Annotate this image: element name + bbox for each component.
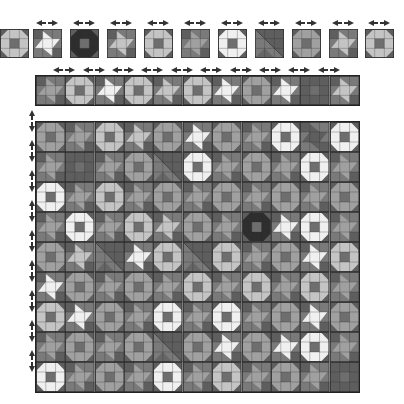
board-tile-octagon[interactable] [242,332,271,362]
board-tile-octagon[interactable] [330,242,359,272]
board-tile-octagon[interactable] [271,362,300,392]
board-tile-star[interactable] [153,272,182,302]
board-tile-octagon[interactable] [212,122,241,152]
board-tile-star[interactable] [300,362,329,392]
board-tile-octagon[interactable] [124,332,153,362]
palette-tile-octagon[interactable] [0,29,29,58]
board-tile-octagon[interactable] [300,332,329,362]
board-tile-star[interactable] [124,362,153,392]
strip-swap-handle[interactable] [83,67,105,73]
strip-tile-star[interactable] [95,76,124,105]
board-tile-octagon[interactable] [153,302,182,332]
board-tile-octagon[interactable] [212,182,241,212]
palette-swap-handle[interactable] [332,20,354,26]
board-tile-star[interactable] [65,182,94,212]
board-tile-star[interactable] [95,152,124,182]
board-tile-octagon[interactable] [65,272,94,302]
palette-swap-handle[interactable] [73,20,95,26]
strip-swap-handle[interactable] [259,67,281,73]
board-tile-star[interactable] [36,212,65,242]
palette-tile-star[interactable] [33,29,62,58]
board-tile-star[interactable] [36,272,65,302]
board-tile-octagon[interactable] [271,302,300,332]
board-tile-star[interactable] [65,302,94,332]
board-tile-octagon[interactable] [65,152,94,182]
board-tile-octagon[interactable] [271,122,300,152]
board-tile-star[interactable] [36,332,65,362]
palette-tile-star[interactable] [181,29,210,58]
board-tile-star[interactable] [65,242,94,272]
board-tile-octagon[interactable] [153,362,182,392]
palette-swap-handle[interactable] [36,20,58,26]
board-tile-star[interactable] [124,242,153,272]
board-tile-star[interactable] [124,302,153,332]
board-tile-star[interactable] [330,272,359,302]
board-tile-star[interactable] [300,242,329,272]
palette-swap-handle[interactable] [368,20,390,26]
board-tile-octagon[interactable] [65,212,94,242]
board-tile-star[interactable] [183,122,212,152]
board-tile-octagon[interactable] [212,302,241,332]
strip-tile-star[interactable] [271,76,300,105]
board-tile-octagon[interactable] [183,272,212,302]
palette-swap-handle[interactable] [258,20,280,26]
board-tile-octagon[interactable] [242,212,271,242]
strip-swap-handle[interactable] [318,67,340,73]
board-tile-octagon[interactable] [95,302,124,332]
strip-tile-octagon[interactable] [124,76,153,105]
board-tile-star[interactable] [242,242,271,272]
board-tile-star[interactable] [183,182,212,212]
board-tile-octagon[interactable] [124,272,153,302]
strip-swap-handle[interactable] [230,67,252,73]
board-tile-star[interactable] [212,332,241,362]
board-tile-octagon[interactable] [65,332,94,362]
board-tile-octagon[interactable] [36,122,65,152]
board-tile-star[interactable] [65,122,94,152]
board-tile-octagon[interactable] [183,332,212,362]
board-tile-octagon[interactable] [95,122,124,152]
strip-swap-handle[interactable] [112,67,134,73]
board-tile-diagonal[interactable] [95,242,124,272]
palette-tile-octagon[interactable] [365,29,394,58]
strip-swap-handle[interactable] [53,67,75,73]
board-tile-octagon[interactable] [330,362,359,392]
board-tile-star[interactable] [300,122,329,152]
board-tile-diagonal[interactable] [153,152,182,182]
board-tile-octagon[interactable] [242,152,271,182]
board-tile-star[interactable] [65,362,94,392]
strip-tile-star[interactable] [36,76,65,105]
board-tile-octagon[interactable] [36,242,65,272]
board-tile-star[interactable] [271,332,300,362]
board-tile-octagon[interactable] [36,182,65,212]
board-tile-star[interactable] [153,212,182,242]
palette-tile-octagon[interactable] [70,29,99,58]
board-tile-star[interactable] [271,152,300,182]
board-tile-star[interactable] [212,152,241,182]
board-tile-star[interactable] [183,362,212,392]
board-tile-star[interactable] [242,302,271,332]
board-tile-octagon[interactable] [95,182,124,212]
board-tile-octagon[interactable] [153,122,182,152]
board-tile-octagon[interactable] [36,302,65,332]
strip-tile-octagon[interactable] [183,76,212,105]
palette-swap-handle[interactable] [221,20,243,26]
board-tile-star[interactable] [242,122,271,152]
board-tile-octagon[interactable] [330,122,359,152]
board-tile-star[interactable] [242,182,271,212]
board-tile-octagon[interactable] [271,182,300,212]
board-tile-star[interactable] [212,272,241,302]
palette-tile-octagon[interactable] [144,29,173,58]
board-tile-octagon[interactable] [330,302,359,332]
palette-swap-handle[interactable] [184,20,206,26]
board-tile-star[interactable] [271,272,300,302]
palette-swap-handle[interactable] [147,20,169,26]
strip-swap-handle[interactable] [171,67,193,73]
palette-tile-diagonal[interactable] [255,29,284,58]
board-tile-star[interactable] [95,332,124,362]
strip-tile-octagon[interactable] [300,76,329,105]
board-tile-star[interactable] [124,122,153,152]
board-tile-diagonal[interactable] [183,242,212,272]
strip-tile-star[interactable] [153,76,182,105]
board-tile-octagon[interactable] [183,212,212,242]
board-tile-octagon[interactable] [124,212,153,242]
